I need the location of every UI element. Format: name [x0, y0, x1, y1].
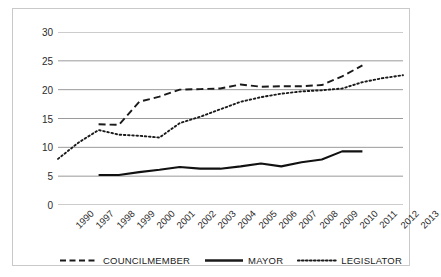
series-lines [58, 32, 403, 205]
legend-swatch-solid [204, 256, 244, 265]
y-tick-label: 15 [42, 113, 53, 124]
x-tick-label: 2010 [357, 208, 380, 231]
y-tick-label: 10 [42, 142, 53, 153]
legend-label: LEGISLATOR [341, 255, 402, 266]
x-tick-label: 2001 [175, 208, 198, 231]
y-tick-label: 25 [42, 55, 53, 66]
x-tick-label: 2008 [317, 208, 340, 231]
x-axis: 1990199719981999200020012002200320042005… [58, 206, 403, 252]
y-tick-label: 30 [42, 27, 53, 38]
x-tick-label: 1997 [93, 208, 116, 231]
y-axis: 051015202530 [25, 32, 57, 205]
y-tick-label: 0 [47, 200, 53, 211]
x-tick-label: 2003 [215, 208, 238, 231]
x-tick-label: 2005 [256, 208, 279, 231]
x-tick-label: 2013 [418, 208, 441, 231]
legend-item[interactable]: MAYOR [204, 255, 283, 266]
legend-item[interactable]: LEGISLATOR [297, 255, 402, 266]
y-tick-label: 20 [42, 84, 53, 95]
x-tick-label: 2006 [276, 208, 299, 231]
x-tick-label: 2007 [296, 208, 319, 231]
x-tick-label: 2012 [398, 208, 421, 231]
plot-area [58, 32, 403, 205]
series-line [99, 151, 363, 175]
series-line [58, 75, 403, 159]
legend-swatch-dotted [297, 256, 337, 265]
x-tick-label: 2000 [154, 208, 177, 231]
chart-legend: COUNCILMEMBERMAYORLEGISLATOR [58, 252, 403, 268]
x-tick-label: 2011 [377, 208, 399, 230]
legend-label: COUNCILMEMBER [103, 255, 190, 266]
chart-frame: 051015202530 199019971998199920002001200… [12, 8, 410, 266]
legend-item[interactable]: COUNCILMEMBER [59, 255, 190, 266]
x-tick-label: 2002 [195, 208, 218, 231]
legend-swatch-dashed [59, 256, 99, 265]
x-tick-label: 2004 [236, 208, 259, 231]
series-line [99, 65, 363, 124]
x-tick-label: 1999 [134, 208, 157, 231]
x-tick-label: 1998 [114, 208, 137, 231]
y-tick-label: 5 [47, 171, 53, 182]
legend-label: MAYOR [248, 255, 283, 266]
x-tick-label: 1990 [73, 208, 96, 231]
x-tick-label: 2009 [337, 208, 360, 231]
